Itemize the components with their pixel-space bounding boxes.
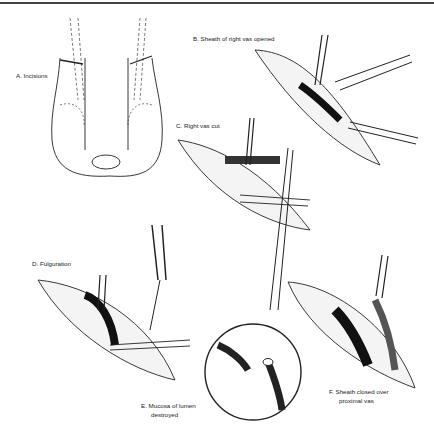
panel-f-label-line2: proximal vas [339,397,374,405]
panel-e-label-line1: E. Mucosa of lumen [141,402,196,410]
panel-c-label: C. Right vas cut [176,122,220,130]
panel-a-drawing [52,18,163,176]
surgical-illustration: A. Incisions B. Sheath of right vas open… [0,0,434,434]
panel-a-label: A. Incisions [16,72,48,80]
panel-d-label: D. Fulguration [32,260,71,268]
panel-b-drawing [255,35,418,165]
panel-d-drawing [38,225,190,380]
illustration-drawing [0,0,434,434]
panel-b-label: B. Sheath of right vas opened [193,35,275,43]
panel-c-drawing [178,118,310,310]
panel-f-label-line1: F. Sheath closed over [329,388,389,396]
panel-f-drawing [288,255,415,388]
panel-e-label-line2: destroyed [151,411,178,419]
panel-e-drawing [205,324,301,420]
